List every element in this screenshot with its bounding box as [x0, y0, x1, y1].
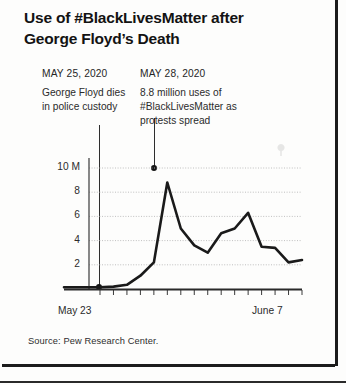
source-note: Source: Pew Research Center.	[28, 336, 158, 346]
data-series-line	[64, 183, 302, 288]
page-border-bottom	[2, 364, 335, 367]
y-axis-tick-label: 6	[36, 209, 80, 220]
page-border-right	[335, 0, 338, 366]
y-axis-tick-label: 10 M	[36, 161, 80, 172]
x-axis-ticks	[100, 290, 302, 295]
y-axis-tick-label: 4	[36, 234, 80, 245]
x-axis-end-label: June 7	[252, 305, 283, 316]
y-axis-tick-label: 2	[36, 258, 80, 269]
y-axis-tick-label: 8	[36, 185, 80, 196]
chart-figure: Use of #BlackLivesMatter after George Fl…	[0, 0, 330, 364]
page-edge-line	[0, 381, 346, 383]
gridlines	[89, 168, 302, 265]
x-axis-start-label: May 23	[58, 305, 91, 316]
plot-area: 10 M 8 6 4 2 May 23 June 7	[0, 0, 330, 330]
